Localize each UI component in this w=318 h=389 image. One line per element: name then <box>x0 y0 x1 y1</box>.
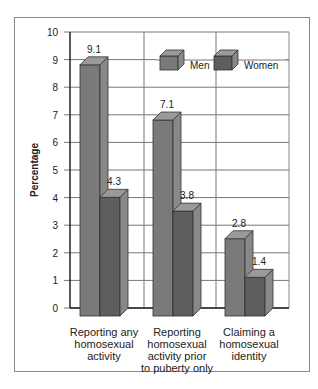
data-label: 4.3 <box>107 176 121 187</box>
category-label: Reporting <box>153 326 201 338</box>
category-label: to puberty only <box>141 362 214 374</box>
legend-men: Men <box>190 60 209 71</box>
y-tick-label: 4 <box>52 193 58 204</box>
y-tick-label: 10 <box>47 27 59 38</box>
legend-swatch <box>160 50 184 70</box>
y-tick-label: 1 <box>52 275 58 286</box>
category-label: homosexual <box>74 338 133 350</box>
data-label: 9.1 <box>87 44 101 55</box>
data-label: 7.1 <box>160 99 174 110</box>
data-label: 2.8 <box>232 218 246 229</box>
bar: 3.8 <box>173 190 201 316</box>
y-tick-label: 3 <box>52 220 58 231</box>
y-axis-label: Percentage <box>29 143 40 197</box>
legend-swatch <box>214 50 238 70</box>
category-label: homosexual <box>219 338 278 350</box>
y-tick-label: 6 <box>52 137 58 148</box>
y-tick-label: 0 <box>52 303 58 314</box>
category-label: activity prior <box>148 350 207 362</box>
bar: 4.3 <box>100 176 128 316</box>
legend-women: Women <box>244 60 278 71</box>
category-label: homosexual <box>147 338 206 350</box>
data-label: 3.8 <box>180 190 194 201</box>
y-tick-label: 8 <box>52 82 58 93</box>
category-label: Claiming a <box>223 326 276 338</box>
category-label: activity <box>87 350 121 362</box>
y-tick-label: 2 <box>52 248 58 259</box>
data-label: 1.4 <box>252 256 266 267</box>
y-tick-label: 7 <box>52 110 58 121</box>
category-label: identity <box>232 350 267 362</box>
category-label: Reporting any <box>70 326 139 338</box>
bar-chart: 012345678910Percentage9.14.3Reporting an… <box>0 0 318 389</box>
y-tick-label: 9 <box>52 55 58 66</box>
y-tick-label: 5 <box>52 165 58 176</box>
